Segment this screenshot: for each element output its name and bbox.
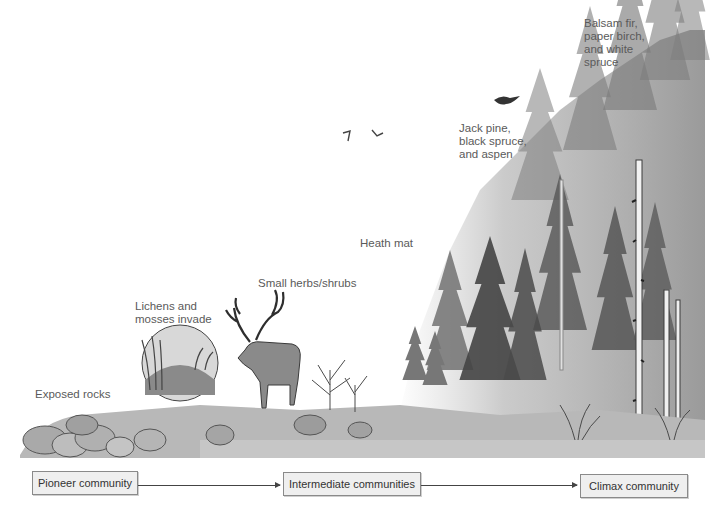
- label-jack-pine-spruce-aspen: Jack pine, black spruce, and aspen: [459, 122, 527, 161]
- box-intermediate-communities-label: Intermediate communities: [289, 478, 415, 490]
- box-pioneer-community: Pioneer community: [32, 471, 138, 495]
- box-climax-community: Climax community: [580, 474, 688, 498]
- box-climax-community-label: Climax community: [589, 480, 679, 492]
- box-intermediate-communities: Intermediate communities: [283, 472, 421, 496]
- box-pioneer-community-label: Pioneer community: [38, 477, 132, 489]
- label-small-herbs-shrubs: Small herbs/shrubs: [258, 277, 356, 290]
- lichen-moss-magnifier: [142, 325, 218, 401]
- caribou-illustration: [226, 290, 300, 408]
- label-balsam-fir-birch-spruce: Balsam fir, paper birch, and white spruc…: [584, 17, 645, 69]
- label-heath-mat: Heath mat: [360, 237, 413, 250]
- label-lichens-mosses: Lichens and mosses invade: [135, 300, 212, 326]
- arrow-intermediate-to-climax: [421, 485, 577, 486]
- label-exposed-rocks: Exposed rocks: [35, 388, 110, 401]
- arrow-pioneer-to-intermediate: [138, 485, 280, 486]
